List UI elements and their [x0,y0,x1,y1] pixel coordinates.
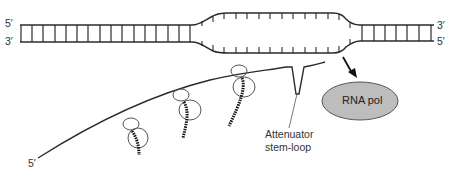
arrow-icon [343,57,357,78]
mrna-5prime-label: 5′ [28,158,36,169]
dna-right-ladder [360,25,434,41]
dna-left-top-label: 5′ [5,18,13,29]
rna-polymerase-label: RNA pol [342,94,382,106]
dna-left-ladder [20,25,192,42]
dna-right-top-label: 3′ [437,20,445,31]
nascent-peptide-1 [132,131,139,155]
dna-left-bottom-label: 3′ [5,36,13,47]
stem-loop-label-line2: stem-loop [265,141,311,154]
transcription-bubble [192,13,360,53]
nascent-peptide-3 [229,78,243,126]
ribosome-1 [123,118,148,148]
dna-right-bottom-label: 5′ [437,36,445,47]
attenuation-diagram [0,0,458,177]
stem-loop-pointer [289,94,297,128]
nascent-peptide-2 [183,102,187,138]
stem-loop-label-line1: Attenuator [265,128,313,141]
